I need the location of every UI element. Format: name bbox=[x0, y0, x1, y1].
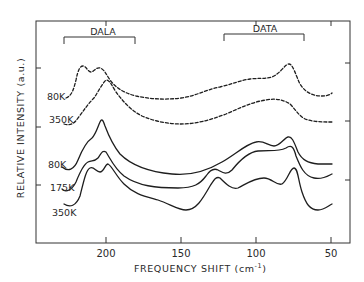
curve-dala-350k bbox=[64, 80, 332, 125]
data-bracket: DATA bbox=[224, 23, 304, 41]
label-dala-350k: 350K bbox=[49, 114, 74, 125]
label-dala-80k: 80K bbox=[47, 91, 66, 102]
x-tick-label-150: 150 bbox=[171, 248, 190, 259]
x-axis-label-close: ) bbox=[262, 263, 266, 274]
x-axis-label: FREQUENCY SHIFT (cm-1) bbox=[134, 262, 267, 274]
x-tick-label-100: 100 bbox=[246, 248, 265, 259]
label-data-175k: 175K bbox=[50, 182, 75, 193]
x-axis-label-main: FREQUENCY SHIFT (cm bbox=[134, 263, 255, 274]
raman-spectra-chart: 200 150 100 50 FREQUENCY SHIFT (cm-1) RE… bbox=[0, 0, 364, 282]
x-tick-label-200: 200 bbox=[96, 248, 115, 259]
data-bracket-label: DATA bbox=[253, 23, 278, 34]
curve-dala-80k bbox=[66, 64, 332, 99]
dala-bracket-line bbox=[64, 37, 135, 44]
data-bracket-line bbox=[224, 34, 304, 41]
label-data-80k: 80K bbox=[48, 159, 67, 170]
dala-bracket: DALA bbox=[64, 26, 135, 44]
x-tick-label-50: 50 bbox=[325, 248, 338, 259]
curve-data-175k bbox=[62, 146, 332, 190]
x-axis-label-superscript: -1 bbox=[255, 262, 263, 270]
y-axis-label: RELATIVE INTENSITY (a.u.) bbox=[15, 58, 26, 199]
curve-data-350k bbox=[64, 164, 332, 210]
label-data-350k: 350K bbox=[52, 207, 77, 218]
dala-bracket-label: DALA bbox=[90, 26, 116, 37]
plot-frame bbox=[36, 21, 350, 243]
